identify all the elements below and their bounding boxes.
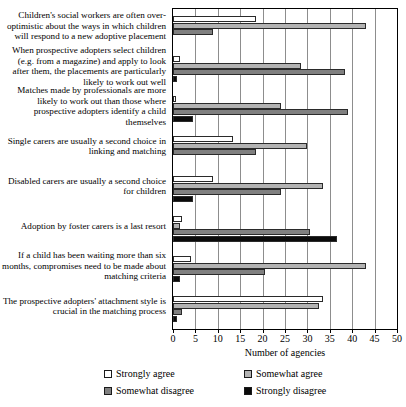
bar xyxy=(173,149,256,155)
legend-row: Strongly agreeSomewhat agree xyxy=(104,366,372,382)
x-axis-tick-label: 50 xyxy=(382,333,406,345)
gridline xyxy=(218,9,219,329)
bar xyxy=(173,29,213,35)
category-label: Disabled carers are usually a second cho… xyxy=(0,176,166,197)
bar xyxy=(173,176,213,182)
bar xyxy=(173,16,256,22)
category-label: Single carers are usually a second choic… xyxy=(0,136,166,157)
legend-swatch-icon xyxy=(244,387,252,395)
category-axis-labels: Children's social workers are often over… xyxy=(0,6,170,328)
legend-label: Somewhat agree xyxy=(256,368,322,380)
bar xyxy=(173,263,366,269)
gridline xyxy=(307,9,308,329)
bar xyxy=(173,96,176,102)
bar xyxy=(173,223,180,229)
bar xyxy=(173,269,265,275)
gridline xyxy=(195,9,196,329)
bar xyxy=(173,183,323,189)
gridline xyxy=(263,9,264,329)
legend-label: Strongly agree xyxy=(116,368,175,380)
bar xyxy=(173,276,180,282)
gridline xyxy=(240,9,241,329)
x-axis-title: Number of agencies xyxy=(172,347,398,358)
legend-row: Somewhat disagreeStrongly disagree xyxy=(104,383,372,399)
bar xyxy=(173,196,193,202)
bar xyxy=(173,316,177,322)
gridline xyxy=(375,9,376,329)
bar xyxy=(173,236,337,242)
bar xyxy=(173,63,301,69)
legend-label: Somewhat disagree xyxy=(116,385,194,397)
legend-swatch-icon xyxy=(104,387,112,395)
chart-legend: Strongly agreeSomewhat agreeSomewhat dis… xyxy=(104,366,372,402)
category-label: Matches made by professionals are more l… xyxy=(0,85,166,127)
bar xyxy=(173,229,310,235)
legend-item: Somewhat agree xyxy=(244,366,372,382)
bar xyxy=(173,136,233,142)
bar xyxy=(173,103,281,109)
bar xyxy=(173,143,307,149)
bar xyxy=(173,69,345,75)
category-label: Children's social workers are often over… xyxy=(0,10,166,42)
bar xyxy=(173,76,177,82)
x-axis: 05101520253035404550 xyxy=(172,329,398,349)
category-label: The prospective adopters' attachment sty… xyxy=(0,296,166,317)
category-label: Adoption by foster carers is a last reso… xyxy=(0,221,166,232)
legend-item: Strongly disagree xyxy=(244,383,372,399)
bar xyxy=(173,216,182,222)
bar xyxy=(173,296,323,302)
chart-plot-region: Children's social workers are often over… xyxy=(0,0,406,330)
category-label: If a child has been waiting more than si… xyxy=(0,250,166,282)
bar xyxy=(173,56,180,62)
legend-swatch-icon xyxy=(104,370,112,378)
bar xyxy=(173,256,191,262)
bar xyxy=(173,23,366,29)
gridline xyxy=(285,9,286,329)
legend-swatch-icon xyxy=(244,370,252,378)
bar xyxy=(173,109,348,115)
legend-item: Strongly agree xyxy=(104,366,244,382)
legend-label: Strongly disagree xyxy=(256,385,326,397)
bar xyxy=(173,303,319,309)
category-label: When prospective adopters select childre… xyxy=(0,45,166,87)
gridline xyxy=(330,9,331,329)
gridline xyxy=(352,9,353,329)
bar xyxy=(173,309,182,315)
legend-item: Somewhat disagree xyxy=(104,383,244,399)
plot-area xyxy=(172,8,398,330)
bar xyxy=(173,116,193,122)
chart-figure: Children's social workers are often over… xyxy=(0,0,406,407)
bar xyxy=(173,189,281,195)
